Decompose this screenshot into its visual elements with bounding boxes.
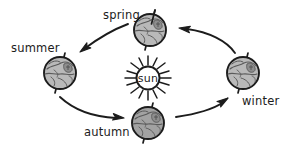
sun-label: sun: [138, 72, 158, 85]
seasons-diagram-canvas: sun spring summer: [0, 0, 287, 152]
label-winter: winter: [242, 94, 279, 108]
arrow-spring-to-summer: [78, 24, 128, 55]
sun: sun: [125, 56, 171, 100]
arrow-summer-to-autumn: [60, 97, 124, 121]
label-autumn: autumn: [84, 125, 130, 139]
label-spring: spring: [103, 8, 140, 22]
label-summer: summer: [11, 41, 60, 55]
arrow-winter-to-spring: [179, 25, 235, 53]
earth-summer: [44, 53, 76, 93]
arrow-autumn-to-winter: [176, 95, 230, 117]
earth-autumn: [132, 103, 164, 143]
seasons-diagram: sun spring summer: [0, 0, 287, 152]
earth-winter: [227, 53, 259, 93]
